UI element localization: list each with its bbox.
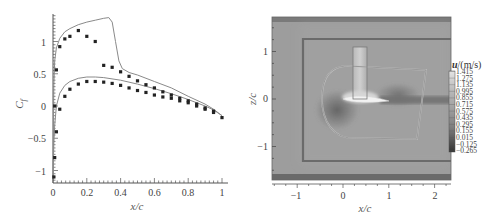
- colorbar: u/(m/s) 1.4151.2751.1350.9950.8550.7150.…: [449, 59, 481, 155]
- x-tick-label: 0: [51, 187, 56, 198]
- experiment-marker: [53, 156, 56, 159]
- experiment-marker: [63, 95, 66, 98]
- experiment-marker: [153, 93, 156, 96]
- figure: 1 0.5 0 −0.5 −1 0 0.2 0.4 0.6 0.8 1 x/c …: [0, 0, 502, 222]
- plot-series: [52, 18, 223, 179]
- experiment-marker: [94, 40, 97, 43]
- y-tick-label: 0: [263, 93, 268, 104]
- experiment-marker: [204, 108, 207, 111]
- experiment-marker: [144, 91, 147, 94]
- x-axis-ticks: [53, 178, 222, 183]
- y-axis-label: z/c: [246, 93, 258, 106]
- experiment-marker: [170, 97, 173, 100]
- experiment-marker: [58, 108, 61, 111]
- experiment-marker: [187, 101, 190, 104]
- x-tick-label: 0.8: [182, 187, 195, 198]
- experiment-marker: [127, 86, 130, 89]
- experiment-marker: [119, 84, 122, 87]
- experiment-marker: [68, 88, 71, 91]
- x-tick-label: 1: [220, 187, 225, 198]
- experiment-marker: [55, 130, 58, 133]
- x-tick-label: −1: [291, 190, 302, 201]
- y-tick-label: −0.5: [28, 133, 46, 144]
- experiment-marker: [127, 75, 130, 78]
- experiment-marker: [161, 90, 164, 93]
- y-tick-label: −1: [35, 166, 46, 177]
- experiment-marker: [220, 116, 223, 119]
- experiment-marker: [94, 80, 97, 83]
- experiment-marker: [85, 80, 88, 83]
- velocity-contour-chart: −1 0 1 2 1 0 −1 x/c z/c u/(m/s) 1.4151.2…: [246, 17, 481, 214]
- experiment-marker: [58, 45, 61, 48]
- x-tick-label: 0.6: [148, 187, 161, 198]
- x-tick-label: 0.4: [114, 187, 127, 198]
- experiment-marker: [195, 104, 198, 107]
- experiment-marker: [136, 79, 139, 82]
- x-tick-label: 0: [341, 190, 346, 201]
- y-tick-label: 0.5: [34, 69, 47, 80]
- y-tick-label: 0: [41, 101, 46, 112]
- experiment-marker: [212, 111, 215, 114]
- experiment-marker: [170, 93, 173, 96]
- y-tick-label: −1: [257, 141, 268, 152]
- x-axis-label: x/c: [130, 200, 144, 212]
- colorbar-level-label: −0.265: [456, 146, 477, 155]
- experiment-marker: [85, 35, 88, 38]
- x-axis-label: x/c: [358, 202, 372, 214]
- experiment-marker: [53, 104, 56, 107]
- experiment-marker: [161, 95, 164, 98]
- experiment-marker: [111, 82, 114, 85]
- experiment-marker: [77, 29, 80, 32]
- experiment-marker: [178, 99, 181, 102]
- x-tick-label: 0.2: [81, 187, 94, 198]
- skin-friction-chart: 1 0.5 0 −0.5 −1 0 0.2 0.4 0.6 0.8 1 x/c …: [13, 14, 228, 212]
- colorbar-scale: [449, 71, 455, 152]
- y-tick-label: 1: [263, 46, 268, 57]
- experiment-marker: [144, 83, 147, 86]
- y-axis-label: Cf: [13, 97, 28, 108]
- experiment-marker: [63, 37, 66, 40]
- experiment-marker: [119, 70, 122, 73]
- x-tick-label: 2: [433, 190, 438, 201]
- y-tick-label: 1: [41, 37, 46, 48]
- experiment-marker: [55, 68, 58, 71]
- svg-text:z/c: z/c: [246, 93, 258, 106]
- experiment-marker: [111, 66, 114, 69]
- experiment-marker: [68, 35, 71, 38]
- computed-curve: [53, 18, 222, 177]
- experiment-marker: [102, 81, 105, 84]
- experiment-marker: [77, 82, 80, 85]
- contour-field: [272, 17, 451, 180]
- experiment-marker: [52, 175, 55, 178]
- experiment-marker: [153, 86, 156, 89]
- svg-text:Cf: Cf: [13, 97, 28, 108]
- experiment-marker: [136, 89, 139, 92]
- x-tick-label: 1: [387, 190, 392, 201]
- x-axis-ticks: [274, 184, 446, 188]
- experiment-marker: [102, 64, 105, 67]
